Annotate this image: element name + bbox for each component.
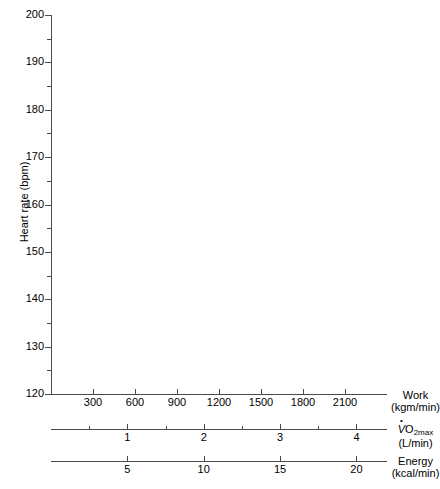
energy-axis-tick-label: 5 — [124, 464, 130, 475]
vo2max-axis-tick — [280, 424, 281, 429]
energy-axis-tick — [127, 456, 128, 461]
v-dot-symbol: V — [398, 423, 405, 435]
y-axis-minor-tick — [47, 39, 51, 40]
work-axis-tick — [261, 389, 262, 394]
work-axis-tick — [177, 389, 178, 394]
vo2max-axis-tick — [356, 424, 357, 429]
vo2max-axis-tick-label: 4 — [353, 432, 359, 443]
y-axis-tick — [45, 299, 51, 300]
vo2max-subscript: 2max — [414, 428, 434, 437]
energy-axis-tick-label: 20 — [350, 464, 362, 475]
vo2max-axis-caption-line1: VO2max — [391, 423, 440, 437]
energy-axis-tick — [204, 456, 205, 461]
y-axis-tick — [45, 110, 51, 111]
work-axis-tick — [135, 389, 136, 394]
work-axis-tick-label: 300 — [84, 397, 102, 408]
y-axis-tick-label: 140 — [26, 293, 44, 304]
work-axis-tick-label: 2100 — [333, 397, 357, 408]
energy-axis-caption-line1: Energy — [391, 455, 440, 467]
vo2max-axis-line — [51, 429, 387, 430]
vo2max-axis-tick-label: 1 — [124, 432, 130, 443]
energy-axis-tick — [356, 456, 357, 461]
y-axis-minor-tick — [47, 276, 51, 277]
work-axis-tick — [303, 389, 304, 394]
y-axis-minor-tick — [47, 228, 51, 229]
work-axis-tick — [345, 389, 346, 394]
energy-axis-tick-label: 15 — [274, 464, 286, 475]
y-axis-minor-tick — [47, 133, 51, 134]
energy-axis-line — [51, 461, 387, 462]
y-axis-tick-label: 130 — [26, 341, 44, 352]
vo2max-o: O — [405, 423, 414, 435]
work-axis-tick — [219, 389, 220, 394]
work-axis-caption-line1: Work — [391, 389, 440, 401]
vo2max-axis-tick-label: 3 — [277, 432, 283, 443]
y-axis-tick — [45, 347, 51, 348]
energy-axis-caption-line2: (kcal/min) — [391, 467, 440, 479]
chart-figure: Heart rate (bpm) 12013014015016017018019… — [0, 0, 440, 489]
y-axis-tick — [45, 252, 51, 253]
energy-axis-tick — [280, 456, 281, 461]
work-axis-caption-line2: (kgm/min) — [391, 401, 440, 413]
y-axis-minor-tick — [47, 370, 51, 371]
y-axis-tick-label: 160 — [26, 199, 44, 210]
work-axis-tick-label: 900 — [168, 397, 186, 408]
vo2max-axis-caption: VO2max (L/min) — [391, 423, 440, 449]
y-axis-tick-label: 190 — [26, 56, 44, 67]
work-axis-tick-label: 1800 — [291, 397, 315, 408]
y-axis-minor-tick — [47, 323, 51, 324]
vo2max-axis-tick — [127, 424, 128, 429]
y-axis-tick-label: 200 — [26, 9, 44, 20]
work-axis-caption: Work (kgm/min) — [391, 389, 440, 413]
y-axis-tick — [45, 157, 51, 158]
vo2max-axis-tick-label: 2 — [201, 432, 207, 443]
y-axis-tick-label: 180 — [26, 104, 44, 115]
energy-axis-tick-label: 10 — [198, 464, 210, 475]
vo2max-axis-minor-tick — [242, 426, 243, 429]
energy-axis-caption: Energy (kcal/min) — [391, 455, 440, 479]
y-axis-tick-label: 170 — [26, 151, 44, 162]
vo2max-axis-minor-tick — [166, 426, 167, 429]
y-axis-tick — [45, 62, 51, 63]
work-axis-line — [51, 394, 387, 395]
y-axis-minor-tick — [47, 181, 51, 182]
plot-area — [52, 15, 387, 394]
work-axis-tick — [93, 389, 94, 394]
y-axis-tick-label: 150 — [26, 246, 44, 257]
y-axis-tick-label: 120 — [26, 388, 44, 399]
vo2max-axis-tick — [204, 424, 205, 429]
work-axis-tick-label: 1200 — [207, 397, 231, 408]
y-axis-tick — [45, 15, 51, 16]
vo2max-axis-minor-tick — [318, 426, 319, 429]
work-axis-tick-label: 600 — [126, 397, 144, 408]
vo2max-axis-minor-tick — [89, 426, 90, 429]
y-axis-minor-tick — [47, 86, 51, 87]
vo2max-axis-caption-line2: (L/min) — [391, 437, 440, 449]
y-axis-tick — [45, 205, 51, 206]
work-axis-tick-label: 1500 — [249, 397, 273, 408]
